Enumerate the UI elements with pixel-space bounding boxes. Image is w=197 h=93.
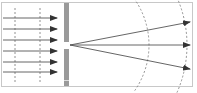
- diffraction-diagram: [0, 0, 197, 93]
- frame: [2, 3, 193, 87]
- barrier-notch: [64, 80, 69, 81]
- barrier-upper: [64, 3, 69, 42]
